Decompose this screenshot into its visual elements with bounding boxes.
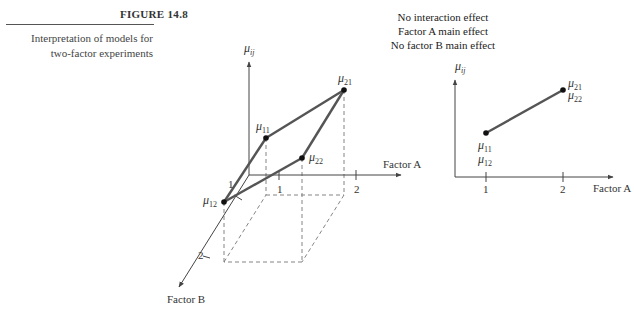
right-2d-plot: μij Factor A 1 2 μ11 μ12 μ21 μ22 bbox=[454, 59, 631, 195]
factor-b-tick-1: 1 bbox=[228, 178, 234, 190]
factor-a-tick-1: 1 bbox=[277, 183, 283, 195]
label-mu12: μ12 bbox=[202, 193, 217, 209]
left-3d-plot: μij Factor A Factor B 1 2 1 2 μ11 μ21 μ2… bbox=[167, 41, 421, 305]
point-mu21 bbox=[341, 87, 347, 93]
left-factor-b-label: Factor B bbox=[167, 293, 205, 305]
left-factor-a-label: Factor A bbox=[383, 158, 421, 170]
right-factor-a-label: Factor A bbox=[593, 182, 631, 194]
right-tick-1: 1 bbox=[483, 183, 489, 195]
factor-a-tick-2: 2 bbox=[354, 183, 360, 195]
factor-b-axis bbox=[179, 175, 249, 287]
label-mu22: μ22 bbox=[308, 150, 323, 166]
factor-b-tick-2: 2 bbox=[198, 249, 204, 261]
label-mu12-right: μ12 bbox=[477, 152, 492, 168]
point-mu11 bbox=[263, 135, 269, 141]
left-mu-axis-label: μij bbox=[243, 41, 255, 57]
label-mu21: μ21 bbox=[337, 71, 352, 87]
point-mu21-mu22 bbox=[560, 87, 566, 93]
point-mu22 bbox=[299, 155, 305, 161]
right-mean-line bbox=[486, 90, 563, 133]
diagram-canvas: μij Factor A Factor B 1 2 1 2 μ11 μ21 μ2… bbox=[0, 0, 634, 331]
point-mu12 bbox=[221, 199, 227, 205]
mean-lines bbox=[224, 90, 344, 202]
right-mu-axis-label: μij bbox=[454, 59, 466, 75]
point-mu11-mu12 bbox=[483, 130, 489, 136]
label-mu11: μ11 bbox=[255, 119, 270, 135]
right-tick-2: 2 bbox=[560, 183, 566, 195]
